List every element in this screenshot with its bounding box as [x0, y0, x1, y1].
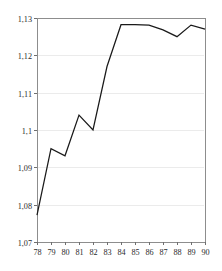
x-tick-label: 88	[173, 248, 181, 257]
y-tick-label: 1,11	[18, 90, 32, 99]
x-tick-label: 79	[47, 248, 55, 257]
x-tick-label: 86	[145, 248, 153, 257]
chart-canvas: 1,071,081,091,11,111,121,13 787980818283…	[0, 0, 222, 271]
x-tick-label: 89	[187, 248, 195, 257]
x-tick-label: 82	[89, 248, 97, 257]
y-tick-label: 1,13	[18, 15, 32, 24]
x-tick-label: 83	[103, 248, 111, 257]
x-tick-label: 80	[61, 248, 69, 257]
x-tick-label: 90	[201, 248, 209, 257]
y-tick-label: 1,07	[18, 239, 32, 248]
x-tick-label: 84	[117, 248, 125, 257]
x-tick-label: 81	[75, 248, 83, 257]
x-tick-label: 85	[131, 248, 139, 257]
x-tick-label: 78	[33, 248, 41, 257]
line-chart: 1,071,081,091,11,111,121,13 787980818283…	[0, 0, 222, 271]
y-tick-label: 1,08	[18, 202, 32, 211]
y-tick-label: 1,1	[22, 127, 32, 136]
y-tick-label: 1,09	[18, 164, 32, 173]
y-tick-label: 1,12	[18, 52, 32, 61]
chart-background	[0, 0, 222, 271]
x-tick-label: 87	[159, 248, 167, 257]
